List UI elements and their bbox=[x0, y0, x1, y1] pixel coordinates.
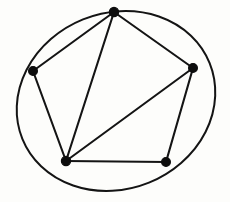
graph-edge bbox=[33, 12, 114, 71]
enclosing-curve-group bbox=[0, 0, 230, 202]
graph-edge bbox=[66, 12, 114, 161]
graph-edge bbox=[66, 68, 193, 161]
graph-vertex bbox=[162, 158, 171, 167]
graph-edge bbox=[114, 12, 193, 68]
figure-canvas bbox=[0, 0, 230, 202]
graph-edge bbox=[66, 161, 166, 162]
graph-diagram bbox=[0, 0, 230, 202]
graph-edge bbox=[166, 68, 193, 162]
graph-vertex bbox=[29, 67, 38, 76]
graph-vertex bbox=[189, 64, 198, 73]
enclosing-oval-curve bbox=[0, 0, 230, 202]
graph-edge bbox=[33, 71, 66, 161]
graph-vertex bbox=[109, 7, 118, 16]
graph-vertex bbox=[61, 156, 70, 165]
